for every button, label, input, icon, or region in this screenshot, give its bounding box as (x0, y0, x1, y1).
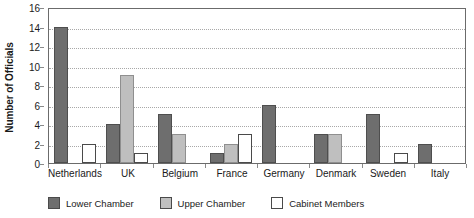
x-axis-tick-label-italy: Italy (414, 168, 466, 186)
bar-group (413, 9, 465, 163)
y-axis-tick-mark (40, 47, 44, 48)
bar-group (153, 9, 205, 163)
y-axis-tick-mark (40, 8, 44, 9)
bar (120, 75, 134, 163)
y-axis-tick-mark (40, 67, 44, 68)
bar-group (205, 9, 257, 163)
legend-item[interactable]: Upper Chamber (160, 197, 246, 209)
bar (238, 134, 252, 163)
bar-group (257, 9, 309, 163)
bar (106, 124, 120, 163)
y-axis-tick-mark (40, 106, 44, 107)
bar (314, 134, 328, 163)
y-axis-title-label: Number of Officials (4, 42, 15, 132)
bar (224, 144, 238, 164)
bar-group (361, 9, 413, 163)
bar (262, 105, 276, 164)
bar (366, 114, 380, 163)
legend-item[interactable]: Lower Chamber (48, 197, 134, 209)
y-axis-tick-label: 14 (29, 22, 40, 33)
y-axis-tick-labels: 0246810121416 (18, 8, 44, 164)
chart-legend: Lower ChamberUpper ChamberCabinet Member… (48, 193, 466, 213)
y-axis-tick-label: 16 (29, 3, 40, 14)
plot-area (48, 8, 466, 164)
legend-label: Cabinet Members (289, 198, 364, 209)
y-axis-tick-mark (40, 125, 44, 126)
legend-swatch-icon (48, 197, 60, 209)
bar (210, 153, 224, 163)
y-axis-tick-mark (40, 28, 44, 29)
y-axis-tick-mark (40, 86, 44, 87)
x-axis-tick-label-denmark: Denmark (310, 168, 362, 186)
legend-swatch-icon (271, 197, 283, 209)
bar-groups (49, 9, 465, 163)
bar (134, 153, 148, 163)
bar (328, 134, 342, 163)
y-axis-tick-mark (40, 145, 44, 146)
bar-group (101, 9, 153, 163)
bar (82, 144, 96, 164)
bar (394, 153, 408, 163)
bar (172, 134, 186, 163)
x-axis-tick-label-netherlands: Netherlands (48, 168, 102, 186)
legend-swatch-icon (160, 197, 172, 209)
y-axis-tick-mark (40, 164, 44, 165)
bar (54, 27, 68, 164)
x-axis-tick-label-sweden: Sweden (362, 168, 414, 186)
y-axis-tick-label: 10 (29, 61, 40, 72)
x-axis-tick-labels: NetherlandsUKBelgiumFranceGermanyDenmark… (48, 168, 466, 186)
x-axis-tick-label-france: France (206, 168, 258, 186)
bar-group (49, 9, 101, 163)
x-axis-tick-label-germany: Germany (258, 168, 310, 186)
bar (158, 114, 172, 163)
y-axis-tick-label: 12 (29, 42, 40, 53)
x-axis-tick-mark (466, 164, 467, 168)
x-axis-tick-label-belgium: Belgium (154, 168, 206, 186)
bar (418, 144, 432, 164)
y-axis-title: Number of Officials (0, 0, 18, 175)
bar-group (309, 9, 361, 163)
legend-label: Upper Chamber (178, 198, 246, 209)
bar-chart: Number of Officials 0246810121416 Nether… (0, 0, 474, 218)
legend-item[interactable]: Cabinet Members (271, 197, 364, 209)
x-axis-tick-label-uk: UK (102, 168, 154, 186)
legend-label: Lower Chamber (66, 198, 134, 209)
